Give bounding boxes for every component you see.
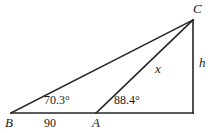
angle-measure-b: 70.3° [44,94,70,106]
base-length-label: 90 [44,117,56,129]
hypotenuse-segment-BC [11,20,193,113]
triangle-drawing [0,0,211,133]
vertex-label-c: C [193,2,202,15]
geometry-figure: C B A h x 70.3° 88.4° 90 [0,0,211,133]
vertex-label-b: B [5,116,13,129]
cevian-segment-AC [96,20,193,113]
cevian-length-label: x [155,62,161,75]
height-label: h [199,56,206,69]
vertex-label-a: A [92,116,100,129]
angle-measure-a: 88.4° [114,94,140,106]
